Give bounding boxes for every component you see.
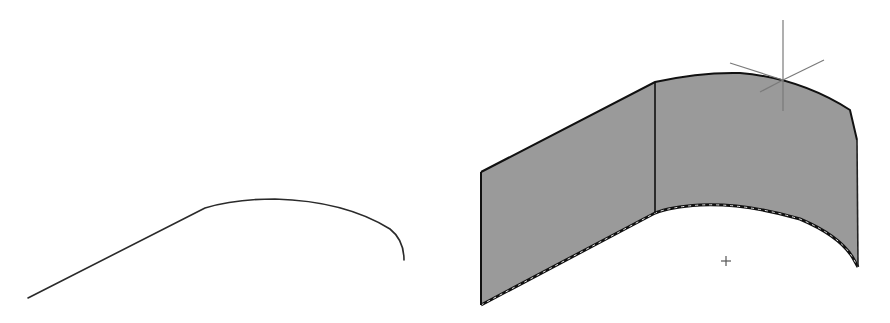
ucs-y-axis <box>783 60 824 80</box>
extruded-surface <box>481 73 858 305</box>
point-marker-plus-icon <box>721 256 731 266</box>
profile-2d-polyline <box>28 199 404 298</box>
cad-drawing-canvas <box>0 0 890 323</box>
surface-right-edge <box>857 140 858 267</box>
surface-fill <box>481 73 858 305</box>
